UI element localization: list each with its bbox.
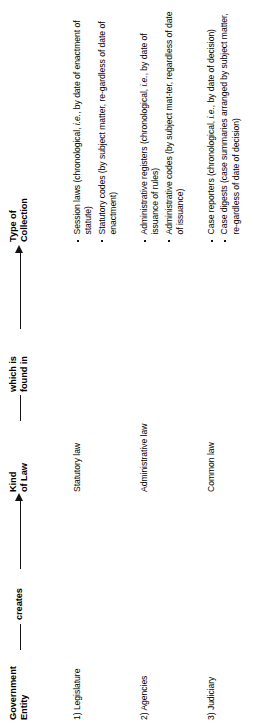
column-header-kind-of-law: Kind of Law xyxy=(8,463,30,492)
table-row-kind: Administrative law xyxy=(139,262,150,492)
list-item: Statutory codes (by subject matter, re‑g… xyxy=(97,4,120,242)
rotated-page-stage: Government Entity creates Kind of Law wh… xyxy=(0,0,280,728)
connector-line-creates-right xyxy=(20,499,21,569)
collection-bullet-list: Administrative registers (chronological,… xyxy=(139,4,187,242)
connector-line-foundin-right xyxy=(20,251,21,329)
connector-label-which-is-found-in: which is found in xyxy=(8,356,30,392)
table-row-entity: 3) Judiciary xyxy=(206,510,217,720)
table-row-kind: Statutory law xyxy=(72,262,83,492)
collection-bullet-list: Session laws (chronological, i.e., by da… xyxy=(72,4,120,242)
table-row-collection: Session laws (chronological, i.e., by da… xyxy=(72,4,122,242)
arrow-right-icon-creates xyxy=(15,493,23,501)
table-row-collection: Case reporters (chronological, i.e., by … xyxy=(206,4,244,242)
table-row-entity: 1) Legislature xyxy=(72,510,83,720)
column-header-government-entity: Government Entity xyxy=(8,666,30,720)
table-row-entity: 2) Agencies xyxy=(139,510,150,720)
list-item: Session laws (chronological, i.e., by da… xyxy=(72,4,95,242)
table-row-kind: Common law xyxy=(206,262,217,492)
table-row-collection: Administrative registers (chronological,… xyxy=(139,4,189,242)
connector-label-creates: creates xyxy=(14,588,25,620)
column-header-type-of-collection: Type of Collection xyxy=(8,198,30,242)
collection-bullet-list: Case reporters (chronological, i.e., by … xyxy=(206,4,242,242)
arrow-right-icon-found-in xyxy=(15,245,23,253)
list-item: Administrative codes (by subject mat‑ter… xyxy=(164,4,187,242)
law-sources-flow-diagram: Government Entity creates Kind of Law wh… xyxy=(0,0,280,728)
list-item: Case digests (case summaries arranged by… xyxy=(219,4,242,242)
connector-line-foundin-left xyxy=(20,395,21,421)
list-item: Administrative registers (chronological,… xyxy=(139,4,162,242)
connector-line-creates-left xyxy=(20,624,21,650)
list-item: Case reporters (chronological, i.e., by … xyxy=(206,4,217,242)
